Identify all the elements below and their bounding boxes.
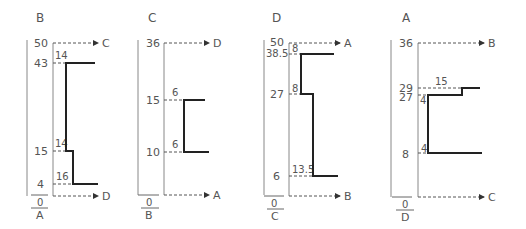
step-label: 4 (421, 143, 427, 154)
panel-title: D (272, 11, 281, 25)
y-label: 50 (34, 37, 48, 50)
y-label: 38.5 (266, 48, 288, 59)
y-label: 6 (273, 170, 280, 183)
step-diagram-canvas: B C D 50 43 15 4 14 14 16 0 A C (0, 0, 526, 229)
panel-title: C (148, 11, 156, 25)
panel-b: B C D 50 43 15 4 14 14 16 0 A (27, 11, 110, 222)
y-label: 15 (34, 145, 48, 158)
bottom-denominator: D (401, 211, 409, 224)
panel-a: A B C 36 29 27 8 15 4 4 0 D (391, 11, 496, 224)
bottom-denominator: C (271, 210, 279, 223)
panel-d: D A B 50 38.5 27 6 8 8 13.5 0 C (264, 11, 352, 223)
panel-title: A (402, 11, 411, 25)
y-label: 27 (270, 88, 284, 101)
y-label: 43 (34, 57, 48, 70)
step-label: 16 (56, 171, 69, 182)
bottom-target-label: C (488, 191, 496, 204)
y-label: 36 (399, 37, 413, 50)
bottom-target-label: D (102, 190, 110, 203)
bottom-target-label: A (213, 189, 221, 202)
top-target-label: D (213, 37, 221, 50)
step-label: 4 (420, 95, 426, 106)
y-label: 4 (37, 178, 44, 191)
step-label: 6 (172, 139, 178, 150)
bottom-numerator: 0 (402, 199, 408, 210)
top-target-label: B (488, 37, 496, 50)
y-label: 10 (146, 146, 160, 159)
bottom-target-label: B (344, 190, 352, 203)
step-label: 8 (292, 83, 298, 94)
bottom-numerator: 0 (37, 197, 43, 208)
panel-c: C D A 36 15 10 6 6 0 B (138, 11, 221, 222)
step-curve (66, 63, 98, 184)
bottom-denominator: B (145, 209, 153, 222)
y-label: 8 (402, 148, 409, 161)
step-label: 13.5 (292, 164, 314, 175)
y-label: 15 (146, 94, 160, 107)
step-label: 8 (292, 43, 298, 54)
step-label: 6 (172, 87, 178, 98)
step-curve (428, 88, 482, 153)
top-target-label: C (102, 37, 110, 50)
y-label: 27 (399, 91, 413, 104)
step-curve (301, 54, 338, 176)
bottom-denominator: A (36, 209, 44, 222)
bottom-numerator: 0 (271, 198, 277, 209)
y-label: 36 (146, 37, 160, 50)
step-curve (184, 100, 209, 152)
step-label: 14 (55, 50, 68, 61)
top-target-label: A (344, 37, 352, 50)
step-label: 15 (435, 76, 448, 87)
panel-title: B (36, 11, 44, 25)
bottom-numerator: 0 (146, 197, 152, 208)
